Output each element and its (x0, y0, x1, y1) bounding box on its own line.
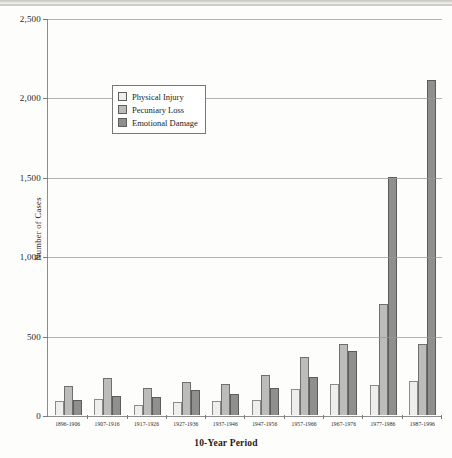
bar (173, 402, 182, 415)
bar (409, 381, 418, 415)
bar (270, 388, 279, 415)
legend-item-0: Physical Injury (118, 90, 198, 103)
scan-edge-line-artifact (0, 4, 452, 6)
bar (291, 389, 300, 415)
bar-group (88, 19, 127, 415)
bar (103, 378, 112, 415)
y-axis-tick-label: 2,500 (20, 14, 41, 24)
bar (230, 394, 239, 415)
y-axis-tick-label: 0 (36, 411, 41, 421)
bar (339, 344, 348, 415)
x-axis-tick (127, 415, 128, 419)
bar-group (128, 19, 167, 415)
x-axis-tick-label: 1987-1996 (403, 421, 442, 427)
bar (152, 397, 161, 415)
y-axis-tick-label: 2,000 (20, 93, 41, 103)
legend-swatch-emotional-damage (118, 118, 127, 127)
x-axis-tick (87, 415, 88, 419)
x-axis-tick-label: 1977-1986 (363, 421, 402, 427)
x-axis-tick (323, 415, 324, 419)
x-axis-tick-label: 1937-1946 (206, 421, 245, 427)
bar (388, 177, 397, 415)
x-axis-tick-labels: 1896-19061907-19161917-19261927-19361937… (48, 421, 442, 427)
y-axis-tick (43, 98, 48, 99)
x-axis-tick (166, 415, 167, 419)
x-axis-tick (205, 415, 206, 419)
bar (191, 390, 200, 415)
bar (330, 384, 339, 415)
legend-label-physical-injury: Physical Injury (132, 92, 184, 102)
x-axis-tick-label: 1927-1936 (166, 421, 205, 427)
bar (55, 401, 64, 415)
x-axis-tick (284, 415, 285, 419)
legend-swatch-physical-injury (118, 92, 127, 101)
y-axis-tick (43, 337, 48, 338)
y-axis-tick (43, 19, 48, 20)
y-axis-tick (43, 178, 48, 179)
bar-group (324, 19, 363, 415)
bar (252, 400, 261, 415)
bar-group (206, 19, 245, 415)
bar-group (167, 19, 206, 415)
legend-swatch-pecuniary-loss (118, 105, 127, 114)
bar (212, 401, 221, 415)
bar-group (285, 19, 324, 415)
x-axis-tick-label: 1896-1906 (48, 421, 87, 427)
x-axis-tick-label: 1957-1966 (284, 421, 323, 427)
bar-group (403, 19, 442, 415)
x-axis-tick-label: 1967-1976 (324, 421, 363, 427)
gridline (48, 337, 442, 338)
x-axis-tick-label: 1917-1926 (127, 421, 166, 427)
bar (134, 405, 143, 415)
x-axis-title: 10-Year Period (0, 438, 452, 448)
bar-group (363, 19, 402, 415)
bar (64, 386, 73, 415)
x-axis-tick (441, 415, 442, 419)
bar (300, 357, 309, 415)
bar (112, 396, 121, 415)
bar (427, 80, 436, 415)
bar (370, 385, 379, 415)
x-axis-tick (244, 415, 245, 419)
bar (418, 344, 427, 415)
y-axis-tick-label: 1,500 (20, 173, 41, 183)
y-axis-tick (43, 257, 48, 258)
plot-area: 05001,0001,5002,0002,500 (47, 19, 442, 417)
bar (73, 400, 82, 415)
legend-item-2: Emotional Damage (118, 116, 198, 129)
legend-item-1: Pecuniary Loss (118, 103, 198, 116)
bar (348, 351, 357, 415)
y-axis-tick-label: 500 (27, 332, 41, 342)
bar-groups (49, 19, 442, 415)
bar (379, 304, 388, 415)
x-axis-tick (402, 415, 403, 419)
gridline (48, 19, 442, 20)
bar-group (245, 19, 284, 415)
chart-figure: Number of Cases 05001,0001,5002,0002,500… (0, 0, 452, 458)
bar-group (49, 19, 88, 415)
legend-label-emotional-damage: Emotional Damage (132, 118, 198, 128)
x-axis-tick-label: 1947-1956 (245, 421, 284, 427)
y-axis-tick-label: 1,000 (20, 252, 41, 262)
bar (309, 377, 318, 415)
x-axis-tick-label: 1907-1916 (87, 421, 126, 427)
y-axis-tick (43, 416, 48, 417)
legend-label-pecuniary-loss: Pecuniary Loss (132, 105, 184, 115)
gridline (48, 178, 442, 179)
bar (261, 375, 270, 415)
gridline (48, 98, 442, 99)
gridline (48, 257, 442, 258)
chart-legend: Physical Injury Pecuniary Loss Emotional… (112, 85, 206, 134)
bar (221, 384, 230, 415)
bar (94, 399, 103, 415)
bar (182, 382, 191, 415)
bar (143, 388, 152, 415)
x-axis-tick (362, 415, 363, 419)
